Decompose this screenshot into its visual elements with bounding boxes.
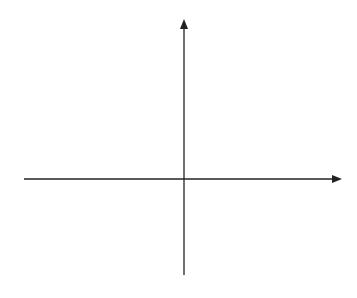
x-axis — [24, 175, 342, 183]
graph — [0, 0, 357, 298]
y-axis — [180, 19, 188, 275]
x-axis-arrow-icon — [332, 175, 342, 183]
y-axis-arrow-icon — [180, 19, 188, 29]
